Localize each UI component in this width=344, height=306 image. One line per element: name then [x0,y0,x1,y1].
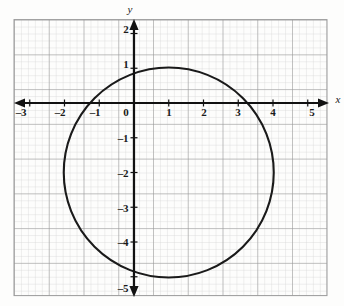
x-tick-label-0: 0 [123,107,128,118]
graph-figure: –3 –2 –1 0 1 2 3 4 5 2 1 –1 –2 –3 –4 –5 … [0,0,344,306]
y-tick-label--2: –2 [118,168,129,179]
x-tick-label-3: 3 [235,107,240,118]
x-tick-label-1: 1 [166,107,171,118]
x-tick-label--3: –3 [16,107,27,118]
x-tick-label--2: –2 [55,107,66,118]
x-tick-label-5: 5 [309,107,314,118]
y-tick-label-1: 1 [123,59,128,70]
y-tick-label--3: –3 [118,203,129,214]
grid-paper [14,20,327,296]
coordinate-plane [0,0,344,306]
x-tick-label--1: –1 [90,107,101,118]
y-tick-label--4: –4 [118,237,129,248]
y-axis-label: y [128,4,133,15]
x-tick-label-4: 4 [270,107,275,118]
y-tick-label--1: –1 [118,133,129,144]
y-tick-label-2: 2 [123,24,128,35]
y-tick-label--5: –5 [118,283,129,294]
x-axis-label: x [336,94,341,105]
x-tick-label-2: 2 [201,107,206,118]
